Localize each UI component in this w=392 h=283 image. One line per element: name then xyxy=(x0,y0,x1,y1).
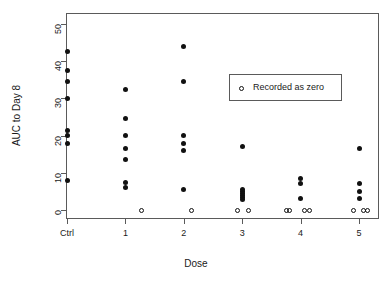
data-point xyxy=(240,144,245,149)
y-axis-title: AUC to Day 8 xyxy=(11,56,22,176)
data-point xyxy=(123,146,128,151)
data-point xyxy=(65,68,70,73)
data-point xyxy=(357,146,362,151)
data-point xyxy=(65,96,70,101)
x-axis-tick-label: 5 xyxy=(339,228,379,239)
data-point-zero xyxy=(365,208,370,213)
data-point xyxy=(181,141,186,146)
x-axis-tick-label: 4 xyxy=(281,228,321,239)
x-axis-title: Dose xyxy=(0,258,392,269)
data-point xyxy=(65,133,70,138)
x-axis-tick-label: 2 xyxy=(164,228,204,239)
open-circle-icon xyxy=(239,86,244,91)
x-axis-tick xyxy=(359,219,360,224)
x-axis-tick xyxy=(125,219,126,224)
data-point-zero xyxy=(246,208,251,213)
x-axis-tick xyxy=(242,219,243,224)
data-point xyxy=(65,49,70,54)
y-axis-tick-label: 20 xyxy=(53,136,63,146)
x-axis-tick xyxy=(67,219,68,224)
plot-frame xyxy=(66,13,379,219)
data-point-zero xyxy=(287,208,292,213)
y-axis-tick-label: 0 xyxy=(53,210,63,215)
data-point-zero xyxy=(302,208,307,213)
legend-entry-label: Recorded as zero xyxy=(253,82,324,92)
data-point xyxy=(65,178,70,183)
data-point-zero xyxy=(235,208,240,213)
data-point xyxy=(123,87,128,92)
x-axis-tick-label: 3 xyxy=(222,228,262,239)
data-point xyxy=(123,180,128,185)
data-point-zero xyxy=(189,208,194,213)
scatter-plot-figure: 01020304050 Ctrl12345 Recorded as zero D… xyxy=(0,0,392,283)
y-axis-tick-label: 40 xyxy=(53,61,63,71)
y-axis-tick-label: 30 xyxy=(53,98,63,108)
data-point xyxy=(65,128,70,133)
data-point xyxy=(298,176,303,181)
legend-box: Recorded as zero xyxy=(229,74,342,101)
x-axis-tick-label: Ctrl xyxy=(47,228,87,239)
data-point xyxy=(123,133,128,138)
data-point xyxy=(240,197,245,202)
data-point-zero xyxy=(351,208,356,213)
data-point xyxy=(65,141,70,146)
y-axis-tick-label: 10 xyxy=(53,173,63,183)
data-point xyxy=(357,196,362,201)
x-axis-tick xyxy=(301,219,302,224)
x-axis-tick xyxy=(184,219,185,224)
x-axis-tick-label: 1 xyxy=(105,228,145,239)
data-point xyxy=(357,189,362,194)
data-point-zero xyxy=(139,208,144,213)
data-point xyxy=(65,79,70,84)
y-axis-tick-label: 50 xyxy=(53,24,63,34)
